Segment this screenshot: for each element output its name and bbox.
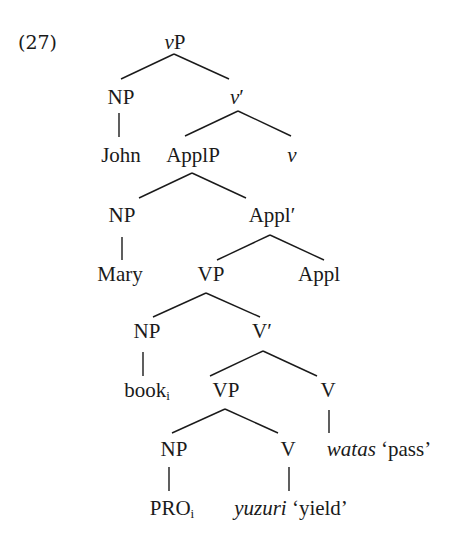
node-v-bar: v′ [230, 85, 244, 109]
node-np-mary: NP [109, 203, 136, 227]
node-v-head: v [287, 143, 296, 167]
edge-vbar2-v [263, 351, 317, 376]
edge-applp-np [139, 173, 192, 198]
node-v-bar-upper: V′ [252, 319, 272, 343]
tree-edges [0, 0, 452, 545]
edge-vbar-v [238, 111, 291, 136]
edge-vbar-applp [185, 111, 238, 136]
node-appl-head: Appl [298, 262, 340, 286]
edge-vp-vbar2 [206, 293, 260, 317]
edge-applp-applbar [192, 173, 246, 198]
edge-vbar2-vp [210, 351, 263, 376]
edge-applbar-vp [217, 235, 270, 260]
edge-vp-vbar [174, 54, 229, 79]
terminal-mary: Mary [97, 262, 143, 286]
node-np-book: NP [134, 319, 161, 343]
node-appl-bar: Appl′ [249, 203, 296, 227]
node-v-upper-head: V [320, 378, 335, 402]
edge-vp2-v [225, 409, 278, 433]
edge-applbar-appl [270, 235, 324, 260]
node-vp-lower: VP [213, 378, 240, 402]
terminal-pro: PROi [150, 496, 194, 520]
edge-vp-np2 [153, 293, 206, 317]
node-vp-upper: VP [198, 262, 225, 286]
terminal-watas: watas ‘pass’ [327, 437, 431, 461]
node-v-lower-head: V [280, 437, 295, 461]
edge-vp2-np [172, 409, 225, 433]
node-np-subject: NP [108, 85, 135, 109]
node-vp-root: vP [164, 30, 185, 54]
node-applp: ApplP [166, 143, 220, 167]
edge-vp-np [121, 54, 174, 79]
node-np-pro: NP [161, 437, 188, 461]
terminal-book: booki [124, 378, 170, 402]
terminal-yuzuri: yuzuri ‘yield’ [234, 496, 348, 520]
terminal-john: John [101, 143, 141, 167]
